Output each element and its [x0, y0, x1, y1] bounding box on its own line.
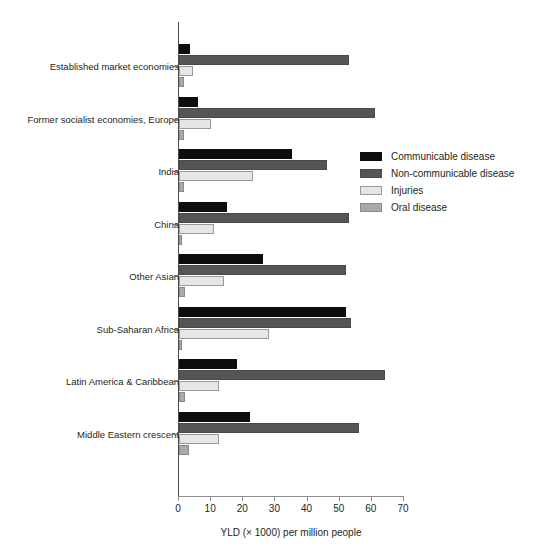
bar-chart: 010203040506070 YLD (× 1000) per million…: [0, 0, 541, 552]
bar-2: [179, 276, 224, 286]
bar-3: [179, 235, 182, 245]
legend-swatch-icon: [360, 169, 382, 178]
bar-2: [179, 434, 219, 444]
category-tick-mark: [172, 381, 178, 382]
x-axis-title: YLD (× 1000) per million people: [178, 527, 404, 538]
x-tick-mark: [274, 496, 275, 501]
bar-3: [179, 182, 184, 192]
bar-0: [179, 254, 263, 264]
bar-3: [179, 77, 184, 87]
bar-0: [179, 149, 292, 159]
x-tick-label: 40: [301, 503, 312, 514]
bar-group: Sub-Saharan Africa: [0, 307, 541, 353]
x-tick-label: 30: [269, 503, 280, 514]
x-tick-mark: [403, 496, 404, 501]
category-label: Sub-Saharan Africa: [97, 324, 179, 335]
category-tick-mark: [172, 119, 178, 120]
bar-0: [179, 202, 227, 212]
bar-2: [179, 119, 211, 129]
category-tick-mark: [172, 224, 178, 225]
x-tick-label: 20: [237, 503, 248, 514]
x-tick-label: 60: [365, 503, 376, 514]
bar-0: [179, 97, 198, 107]
x-tick-mark: [178, 496, 179, 501]
bar-2: [179, 66, 193, 76]
bar-2: [179, 224, 214, 234]
bar-1: [179, 108, 375, 118]
bar-group: Other Asian: [0, 254, 541, 300]
legend-item: Injuries: [360, 182, 514, 199]
bar-1: [179, 213, 349, 223]
bar-3: [179, 392, 185, 402]
category-label: Latin America & Caribbean: [66, 376, 179, 387]
legend-label: Injuries: [391, 185, 423, 196]
legend-item: Non-communicable disease: [360, 165, 514, 182]
bar-2: [179, 171, 253, 181]
x-tick-mark: [210, 496, 211, 501]
x-tick-mark: [371, 496, 372, 501]
category-label: Middle Eastern crescent: [77, 429, 179, 440]
bar-group: Established market economies: [0, 44, 541, 90]
legend-swatch-icon: [360, 152, 382, 161]
legend-label: Communicable disease: [391, 151, 495, 162]
bar-0: [179, 44, 190, 54]
category-tick-mark: [172, 434, 178, 435]
legend-label: Non-communicable disease: [391, 168, 514, 179]
category-tick-mark: [172, 171, 178, 172]
bar-3: [179, 445, 189, 455]
legend-label: Oral disease: [391, 202, 447, 213]
bar-group: Middle Eastern crescent: [0, 412, 541, 458]
x-tick-mark: [242, 496, 243, 501]
bar-3: [179, 340, 182, 350]
category-tick-mark: [172, 276, 178, 277]
bar-0: [179, 359, 237, 369]
bar-group: Latin America & Caribbean: [0, 359, 541, 405]
x-tick-label: 0: [175, 503, 181, 514]
bar-1: [179, 318, 351, 328]
bar-0: [179, 412, 250, 422]
category-tick-mark: [172, 329, 178, 330]
bar-2: [179, 381, 219, 391]
bar-1: [179, 370, 385, 380]
category-label: Established market economies: [50, 61, 179, 72]
category-tick-mark: [172, 66, 178, 67]
bar-3: [179, 130, 184, 140]
legend-swatch-icon: [360, 203, 382, 212]
legend-item: Communicable disease: [360, 148, 514, 165]
bar-1: [179, 55, 349, 65]
category-label: Former socialist economies, Europe: [27, 114, 179, 125]
x-tick-mark: [339, 496, 340, 501]
bar-1: [179, 160, 327, 170]
bar-group: Former socialist economies, Europe: [0, 97, 541, 143]
legend-item: Oral disease: [360, 199, 514, 216]
x-tick-label: 70: [397, 503, 408, 514]
x-tick-label: 10: [205, 503, 216, 514]
bar-1: [179, 423, 359, 433]
x-tick-mark: [307, 496, 308, 501]
legend-swatch-icon: [360, 186, 382, 195]
bar-2: [179, 329, 269, 339]
bar-1: [179, 265, 346, 275]
bar-0: [179, 307, 346, 317]
chart-legend: Communicable diseaseNon-communicable dis…: [360, 148, 514, 216]
bar-3: [179, 287, 185, 297]
x-tick-label: 50: [333, 503, 344, 514]
